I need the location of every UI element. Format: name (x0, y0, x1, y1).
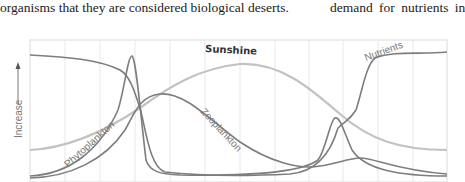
nutrients-curve (30, 52, 447, 175)
y-axis-label: Increase (13, 62, 24, 138)
nutrients-label: Nutrients (363, 39, 404, 63)
svg-text:Increase: Increase (13, 99, 24, 138)
phytoplankton-curve (30, 56, 447, 176)
arrow-up-icon (16, 62, 21, 69)
sunshine-label: Sunshine (205, 43, 258, 57)
